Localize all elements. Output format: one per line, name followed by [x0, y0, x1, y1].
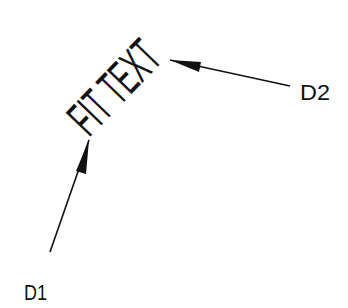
fit-text-group: FIT TEXT: [57, 29, 172, 146]
leader-d1: [50, 140, 89, 252]
arrowhead-d2-icon: [170, 60, 201, 72]
arrowhead-d1-icon: [76, 140, 89, 174]
label-d1: D1: [24, 280, 47, 305]
leader-d2: [170, 60, 290, 86]
diagram-svg: FIT TEXT D1 D2: [0, 0, 348, 308]
label-d2: D2: [300, 80, 330, 105]
diagram-canvas: FIT TEXT D1 D2: [0, 0, 348, 308]
fit-text: FIT TEXT: [57, 29, 172, 146]
